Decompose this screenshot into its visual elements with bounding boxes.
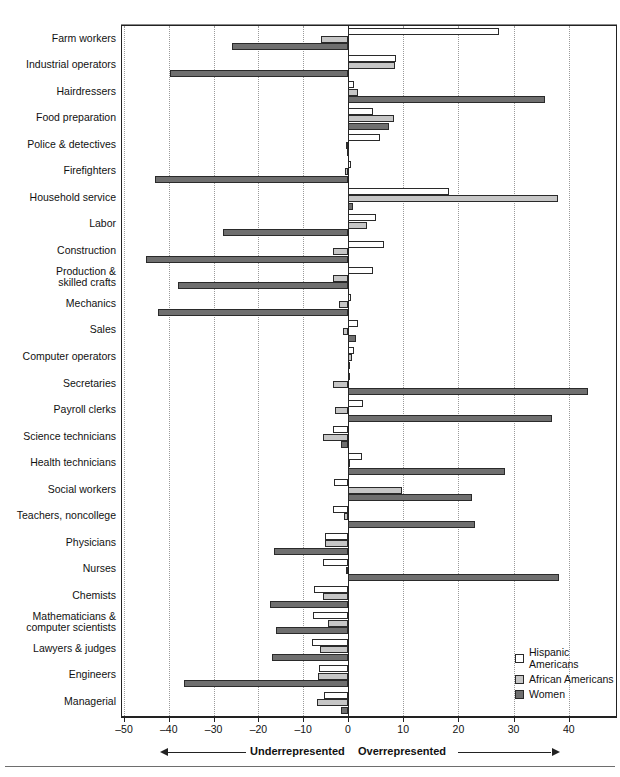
- x-axis-tick: [348, 717, 349, 722]
- bar: [344, 513, 348, 520]
- bar: [343, 328, 348, 335]
- bar: [276, 627, 348, 634]
- y-axis-tick-label: Engineers: [0, 669, 116, 681]
- bar: [346, 567, 348, 574]
- bar: [348, 123, 389, 130]
- y-axis-tick-label: Police & detectives: [0, 139, 116, 151]
- bar: [348, 494, 472, 501]
- bar: [319, 665, 348, 672]
- y-axis-tick-label: Food preparation: [0, 112, 116, 124]
- y-axis-labels: Farm workersIndustrial operatorsHairdres…: [0, 25, 116, 717]
- bar: [348, 108, 373, 115]
- bar: [313, 612, 348, 619]
- bar: [325, 540, 348, 547]
- legend-swatch-icon: [515, 654, 524, 663]
- bar: [328, 620, 348, 627]
- legend-swatch-icon: [515, 690, 524, 699]
- bar: [348, 28, 499, 35]
- x-axis-tick: [514, 717, 515, 722]
- bar: [348, 373, 350, 380]
- bar: [348, 460, 350, 467]
- plot-area: [121, 25, 617, 717]
- x-axis-tick-label: –50: [115, 723, 133, 735]
- gridline: [214, 26, 216, 716]
- gridline: [258, 26, 260, 716]
- x-axis-tick: [458, 717, 459, 722]
- bar: [348, 294, 351, 301]
- x-axis-tick-label: –10: [294, 723, 312, 735]
- y-axis-tick-label: Physicians: [0, 537, 116, 549]
- y-axis-tick-label: Construction: [0, 245, 116, 257]
- bar: [333, 506, 348, 513]
- y-axis-tick-label: Hairdressers: [0, 86, 116, 98]
- legend-label: Women: [529, 688, 565, 700]
- x-axis-tick: [403, 717, 404, 722]
- y-axis-tick-label: Teachers, noncollege: [0, 510, 116, 522]
- bar: [348, 267, 373, 274]
- bar: [232, 43, 348, 50]
- y-axis-tick-label: Production & skilled crafts: [0, 266, 116, 289]
- bar: [321, 36, 348, 43]
- bar: [341, 707, 348, 714]
- bar: [178, 282, 348, 289]
- x-axis-tick-label: –20: [250, 723, 268, 735]
- y-axis-tick-label: Mechanics: [0, 298, 116, 310]
- y-axis-tick-label: Labor: [0, 218, 116, 230]
- y-axis-tick-label: Nurses: [0, 563, 116, 575]
- y-axis-tick-label: Computer operators: [0, 351, 116, 363]
- bar: [348, 388, 588, 395]
- bar: [339, 301, 348, 308]
- underrepresented-line: [168, 752, 246, 753]
- gridline: [403, 26, 405, 716]
- legend-swatch-icon: [515, 675, 524, 684]
- legend-item[interactable]: Women: [515, 688, 620, 700]
- bar: [348, 400, 363, 407]
- bar: [348, 214, 376, 221]
- gridline: [514, 26, 516, 716]
- y-axis-tick-label: Payroll clerks: [0, 404, 116, 416]
- y-axis-tick-label: Household service: [0, 192, 116, 204]
- chart-root: Farm workersIndustrial operatorsHairdres…: [0, 0, 620, 777]
- legend-item[interactable]: African Americans: [515, 673, 620, 685]
- x-axis-rule: [121, 717, 617, 718]
- bar: [333, 275, 348, 282]
- bar: [346, 142, 348, 149]
- y-axis-tick-label: Lawyers & judges: [0, 643, 116, 655]
- bar: [348, 222, 367, 229]
- bar: [323, 434, 348, 441]
- y-axis-tick-label: Mathematicians & computer scientists: [0, 611, 116, 634]
- bar: [348, 362, 350, 369]
- bar: [348, 241, 384, 248]
- bar: [348, 81, 354, 88]
- bar: [155, 176, 348, 183]
- y-axis-tick-label: Industrial operators: [0, 59, 116, 71]
- bar: [170, 70, 348, 77]
- bar: [333, 381, 348, 388]
- y-axis-tick-label: Social workers: [0, 484, 116, 496]
- bar: [348, 487, 402, 494]
- x-axis-tick: [258, 717, 259, 722]
- x-axis-tick-label: 30: [508, 723, 520, 735]
- bar: [333, 248, 348, 255]
- bar: [323, 559, 348, 566]
- bar: [146, 256, 348, 263]
- bar: [270, 601, 348, 608]
- x-axis-tick-label: –40: [160, 723, 178, 735]
- bar: [345, 168, 348, 175]
- bar: [348, 521, 475, 528]
- bar: [348, 188, 449, 195]
- bar: [348, 115, 394, 122]
- bar: [333, 426, 348, 433]
- bar: [324, 692, 348, 699]
- bar: [272, 654, 348, 661]
- underrepresented-arrow-icon: [160, 748, 168, 756]
- y-axis-tick-label: Science technicians: [0, 431, 116, 443]
- bar: [317, 699, 348, 706]
- bar: [314, 586, 348, 593]
- gridline: [458, 26, 460, 716]
- bar: [318, 673, 348, 680]
- bar: [334, 479, 348, 486]
- y-axis-tick-label: Farm workers: [0, 33, 116, 45]
- legend-item[interactable]: Hispanic Americans: [515, 646, 620, 670]
- legend: Hispanic AmericansAfrican AmericansWomen: [515, 646, 620, 703]
